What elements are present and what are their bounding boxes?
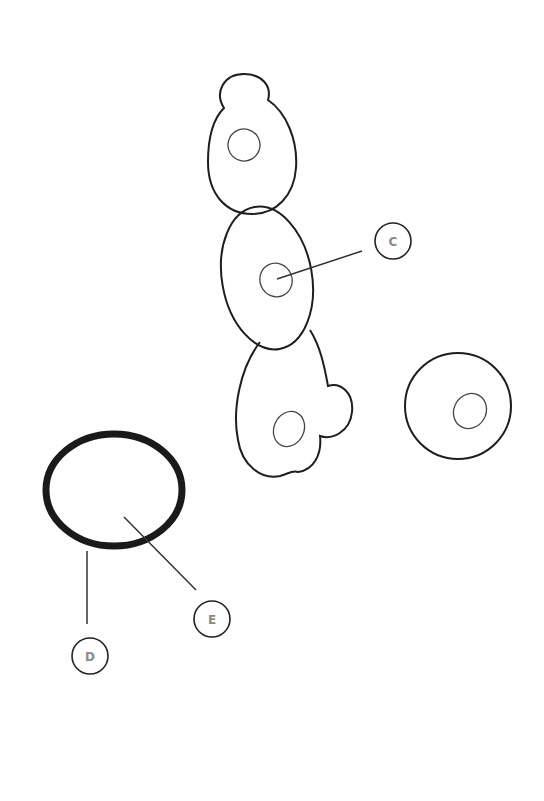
bottom-cell bbox=[236, 330, 352, 477]
thick-ring bbox=[46, 434, 182, 546]
top-cell-nucleus bbox=[222, 123, 266, 167]
yeast-diagram: C D E bbox=[0, 0, 544, 801]
leader-line-c bbox=[277, 251, 362, 279]
middle-cell-outline bbox=[210, 199, 324, 356]
label-c-text: C bbox=[389, 235, 398, 249]
label-e-text: E bbox=[208, 613, 216, 627]
label-c: C bbox=[375, 223, 411, 259]
right-cell bbox=[405, 353, 511, 459]
middle-cell bbox=[210, 199, 324, 356]
right-cell-outline bbox=[405, 353, 511, 459]
middle-cell-nucleus bbox=[254, 258, 297, 302]
bottom-cell-outline bbox=[236, 330, 352, 477]
top-cell-outline bbox=[208, 74, 296, 214]
right-cell-nucleus bbox=[447, 387, 493, 434]
bottom-cell-nucleus bbox=[268, 406, 310, 451]
label-d-text: D bbox=[85, 650, 95, 664]
label-e: E bbox=[194, 601, 230, 637]
top-cell bbox=[208, 74, 296, 214]
label-d: D bbox=[72, 638, 108, 674]
